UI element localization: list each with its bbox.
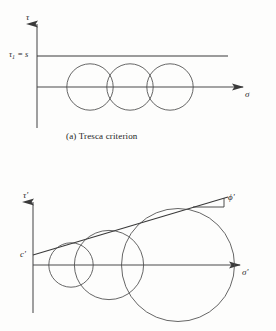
panel-a-envelope-label-equation: = s <box>15 49 28 59</box>
panel-b-group <box>33 197 240 322</box>
panel-a-sigma-axis-label: σ <box>245 90 249 99</box>
figure-canvas <box>0 0 276 331</box>
panel-a-tau-axis-label: τ <box>26 13 29 22</box>
panel-b-tau-axis-label: τ' <box>23 191 28 200</box>
panel-b-friction-angle-label: ϕ' <box>228 193 235 202</box>
panel-a-group <box>37 24 243 128</box>
panel-a-envelope-label: τ1 = s <box>9 50 28 60</box>
panel-b-sigma-axis-label: σ' <box>242 268 248 277</box>
panel-b-failure-envelope <box>33 197 228 255</box>
panel-a-caption: (a) Tresca criterion <box>66 131 137 141</box>
figure-page: τ σ τ1 = s (a) Tresca criterion τ' σ' c'… <box>0 0 276 331</box>
panel-b-cohesion-intercept-label: c' <box>20 250 26 259</box>
